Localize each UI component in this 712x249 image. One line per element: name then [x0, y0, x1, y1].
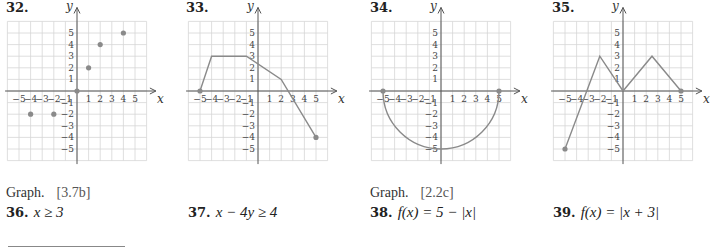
svg-text:−1: −1 [242, 98, 255, 108]
svg-text:1: 1 [86, 94, 92, 104]
graphs-canvas: xy−5−5−4−4−3−3−2−2−1−11122334455xy−5−5−4… [0, 0, 712, 170]
svg-text:y: y [429, 0, 437, 13]
instruction-graph-3-7b: Graph.[3.7b] [6, 185, 90, 201]
svg-text:−1: −1 [425, 98, 438, 108]
svg-text:y: y [65, 0, 73, 13]
graph-33: xy−5−5−4−4−3−3−2−2−1−11122334455 [186, 0, 345, 164]
graph-32: xy−5−5−4−4−3−3−2−2−1−11122334455 [5, 0, 164, 164]
svg-text:1: 1 [632, 94, 638, 104]
svg-text:−4: −4 [61, 132, 75, 142]
svg-text:x: x [521, 92, 528, 106]
svg-text:−5: −5 [242, 144, 256, 154]
svg-text:5: 5 [68, 28, 74, 38]
svg-text:−3: −3 [242, 121, 256, 131]
svg-text:y: y [611, 0, 619, 13]
svg-text:2: 2 [432, 63, 438, 73]
svg-text:3: 3 [109, 94, 115, 104]
svg-text:−2: −2 [61, 109, 74, 119]
svg-text:1: 1 [450, 94, 456, 104]
svg-text:5: 5 [614, 28, 620, 38]
svg-text:4: 4 [485, 94, 491, 104]
problem-expression: f(x) = 5 − |x| [398, 204, 476, 220]
svg-text:−3: −3 [425, 121, 439, 131]
svg-text:2: 2 [278, 94, 284, 104]
svg-text:4: 4 [121, 94, 127, 104]
svg-text:2: 2 [614, 63, 620, 73]
problem-number: 38. [370, 205, 393, 220]
svg-text:2: 2 [249, 63, 255, 73]
svg-text:2: 2 [68, 63, 74, 73]
svg-text:1: 1 [432, 74, 438, 84]
svg-text:3: 3 [68, 51, 74, 61]
svg-text:−3: −3 [61, 121, 75, 131]
svg-text:2: 2 [97, 94, 103, 104]
answer-line [8, 246, 125, 247]
problem-number: 37. [188, 205, 211, 220]
svg-text:5: 5 [678, 94, 684, 104]
svg-text:−4: −4 [242, 132, 256, 142]
svg-text:3: 3 [473, 94, 479, 104]
svg-text:−2: −2 [242, 109, 255, 119]
svg-text:3: 3 [655, 94, 661, 104]
problem-37: 37.x − 4y ≥ 4 [188, 204, 277, 221]
svg-text:3: 3 [432, 51, 438, 61]
svg-text:−4: −4 [607, 132, 621, 142]
problem-36: 36.x ≥ 3 [6, 204, 64, 221]
svg-text:−1: −1 [607, 98, 620, 108]
svg-text:−2: −2 [607, 109, 620, 119]
svg-text:5: 5 [432, 28, 438, 38]
svg-text:x: x [157, 92, 164, 106]
svg-text:y: y [246, 0, 254, 13]
graph-35: xy−5−5−4−4−3−3−2−2−1−11122334455 [551, 0, 710, 164]
svg-text:3: 3 [614, 51, 620, 61]
svg-text:4: 4 [432, 40, 438, 50]
svg-text:2: 2 [461, 94, 467, 104]
graph-34: xy−5−5−4−4−3−3−2−2−1−11122334455 [369, 0, 528, 164]
svg-text:5: 5 [313, 94, 319, 104]
svg-text:−5: −5 [61, 144, 75, 154]
problem-39: 39.f(x) = |x + 3| [553, 204, 659, 221]
problem-expression: x ≥ 3 [34, 204, 64, 220]
svg-text:−1: −1 [61, 98, 74, 108]
svg-text:4: 4 [667, 94, 673, 104]
problem-38: 38.f(x) = 5 − |x| [370, 204, 476, 221]
problem-expression: x − 4y ≥ 4 [216, 204, 278, 220]
svg-text:−2: −2 [425, 109, 438, 119]
instruction-text: Graph. [6, 185, 45, 200]
svg-text:−4: −4 [425, 132, 439, 142]
svg-text:−5: −5 [607, 144, 621, 154]
svg-text:2: 2 [643, 94, 649, 104]
problem-33-number: 33. [186, 0, 209, 15]
svg-text:1: 1 [249, 74, 255, 84]
svg-text:−3: −3 [607, 121, 621, 131]
problem-34-number: 34. [370, 0, 393, 15]
problem-35-number: 35. [552, 0, 575, 15]
svg-text:4: 4 [614, 40, 620, 50]
svg-text:x: x [703, 92, 710, 106]
svg-text:1: 1 [267, 94, 273, 104]
svg-text:4: 4 [302, 94, 308, 104]
problem-number: 36. [6, 205, 29, 220]
svg-text:1: 1 [68, 74, 74, 84]
problem-32-number: 32. [6, 0, 29, 15]
svg-text:5: 5 [249, 28, 255, 38]
section-ref: [3.7b] [57, 185, 91, 200]
section-ref: [2.2c] [421, 185, 454, 200]
svg-text:x: x [338, 92, 345, 106]
instruction-graph-2-2c: Graph.[2.2c] [370, 185, 454, 201]
svg-text:4: 4 [68, 40, 74, 50]
svg-text:5: 5 [132, 94, 138, 104]
instruction-text: Graph. [370, 185, 409, 200]
svg-text:4: 4 [249, 40, 255, 50]
problem-expression: f(x) = |x + 3| [581, 204, 659, 220]
problem-number: 39. [553, 205, 576, 220]
